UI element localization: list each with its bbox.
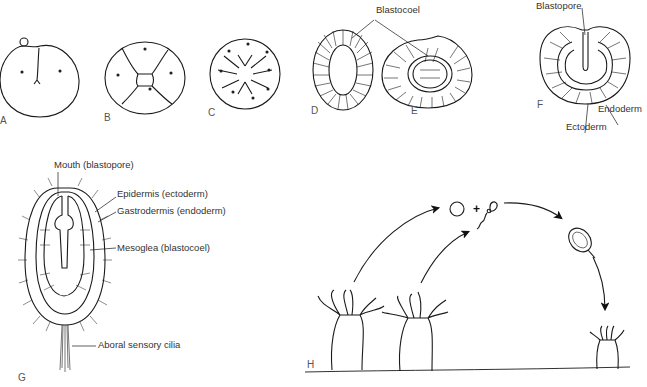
panel-label-d: D xyxy=(311,106,318,116)
leader-lines-top xyxy=(352,8,618,133)
diagram-canvas xyxy=(0,0,647,387)
label-mesoglea: Mesoglea (blastocoel) xyxy=(117,243,210,253)
panel-a-two-cell-embryo xyxy=(0,38,79,117)
panel-e-early-gastrula xyxy=(382,36,472,108)
plus-sign: + xyxy=(473,203,480,215)
panel-label-a: A xyxy=(0,116,7,126)
panel-h-life-cycle xyxy=(305,202,630,372)
label-blastopore: Blastopore xyxy=(536,1,581,11)
label-aboral-cilia: Aboral sensory cilia xyxy=(98,340,180,350)
panel-b-four-cell-embryo xyxy=(105,42,185,114)
panel-label-h: H xyxy=(307,360,314,370)
label-epidermis: Epidermis (ectoderm) xyxy=(117,189,208,199)
panel-label-b: B xyxy=(104,113,111,123)
panel-label-f: F xyxy=(537,100,543,110)
label-gastrodermis: Gastrodermis (endoderm) xyxy=(117,206,226,216)
label-mouth: Mouth (blastopore) xyxy=(54,160,134,170)
panel-c-eight-cell-embryo xyxy=(210,39,280,109)
panel-label-c: C xyxy=(208,108,215,118)
label-blastocoel: Blastocoel xyxy=(376,5,420,15)
label-ectoderm: Ectoderm xyxy=(566,122,607,132)
label-endoderm: Endoderm xyxy=(598,104,642,114)
panel-label-g: G xyxy=(18,373,26,383)
panel-f-gastrula xyxy=(540,27,630,104)
panel-d-blastula xyxy=(313,30,373,110)
panel-label-e: E xyxy=(411,106,418,116)
